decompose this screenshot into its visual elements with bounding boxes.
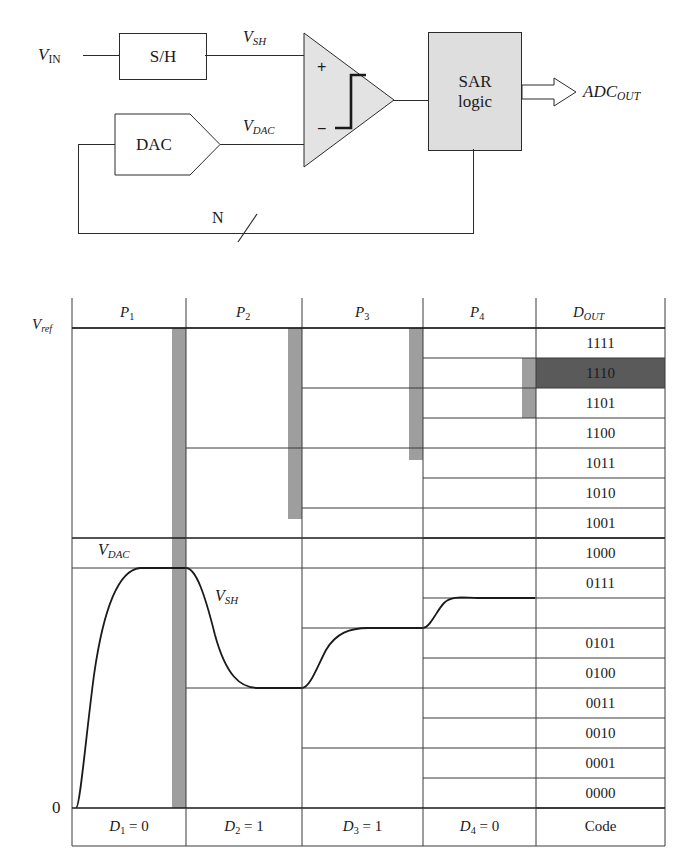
feedback-bus-width-label: N [212,210,224,226]
code-cell-2: 1101 [536,395,665,412]
code-cell-14: 0001 [536,755,665,772]
code-cell-12: 0011 [536,695,665,712]
code-cell-5: 1010 [536,485,665,502]
wire-comparator-to-sar [393,100,429,101]
dac-label: DAC [114,113,194,176]
wire-dac-to-comparator [220,144,305,145]
wire-feedback-into-dac [78,144,115,145]
decision-cell-d3: D3 = 1 [302,818,423,836]
code-cell-15: 0000 [536,785,665,802]
decision-cell-d2: D2 = 1 [186,818,302,836]
phase-header-p1: P1 [120,305,134,322]
y-axis-vref-label: Vref [32,317,52,334]
sar-logic-block: SAR logic [428,32,522,151]
code-cell-6: 1001 [536,515,665,532]
phase-header-p2: P2 [236,305,250,322]
code-cell-4: 1011 [536,455,665,472]
code-cell-8: 0111 [536,575,665,592]
comparator-block: + − [303,32,395,168]
sar-logic-label-line2: logic [458,92,492,112]
vsh-signal-label: VSH [243,29,266,47]
code-cell-9-highlighted: 0110 [536,605,665,622]
decision-cell-d1: D1 = 0 [72,818,186,836]
bus-slash-icon [237,213,259,243]
y-axis-zero-label: 0 [52,799,61,816]
input-signal-label: VIN [38,46,61,66]
code-cell-3: 1100 [536,425,665,442]
adc-output-label: ADCOUT [583,83,640,103]
wire-vin-to-sh [83,55,119,56]
code-cell-13: 0010 [536,725,665,742]
sar-adc-block-diagram: VIN S/H VSH DAC VDAC + − [0,0,683,250]
code-cell-1: 1110 [536,365,665,382]
wire-sar-down [473,149,474,234]
vdac-signal-label: VDAC [243,118,275,136]
comparator-plus-input-label: + [317,58,326,76]
comparator-minus-input-label: − [317,120,326,138]
code-cell-11: 0100 [536,665,665,682]
sample-hold-label: S/H [150,47,176,67]
wire-feedback-horizontal [78,233,474,234]
sar-timing-chart: Vref 0 P1 P2 P3 P4 DOUT VDAC VSH 1111 11… [0,255,683,864]
vsh-level-label: VSH [215,588,238,606]
code-cell-7: 1000 [536,545,665,562]
sar-logic-label-line1: SAR [458,72,491,92]
sample-hold-block: S/H [119,33,207,80]
wire-sh-to-comparator [205,55,305,56]
quantisation-gridlines [72,328,536,778]
wire-feedback-up-to-dac [78,144,79,234]
phase-header-p4: P4 [470,305,484,322]
adc-output-arrow-icon [521,77,577,107]
marker-bar-p3 [409,328,423,460]
dac-block: DAC [114,113,221,176]
phase-header-p3: P3 [355,305,369,322]
code-cell-0: 1111 [536,335,665,352]
code-cell-10: 0101 [536,635,665,652]
code-column-header: DOUT [573,305,604,322]
vdac-curve-label: VDAC [98,542,130,560]
decision-cell-d4: D4 = 0 [423,818,536,836]
code-column-footer: Code [536,818,665,835]
marker-bar-p2 [288,328,302,519]
